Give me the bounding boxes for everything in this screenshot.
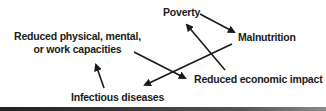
node-infectious-diseases: Infectious diseases <box>71 91 164 104</box>
node-malnutrition: Malnutrition <box>238 31 296 44</box>
node-infectious-diseases-label: Infectious diseases <box>71 91 164 103</box>
arrow-infectious-to-capacities <box>96 65 104 88</box>
node-reduced-economic-impact-label: Reduced economic impact <box>194 73 322 85</box>
bottom-border-rule <box>0 107 326 111</box>
node-reduced-capacities-label-line2: or work capacities <box>14 43 141 56</box>
node-reduced-capacities: Reduced physical, mental, or work capaci… <box>14 30 141 56</box>
node-malnutrition-label: Malnutrition <box>238 31 296 43</box>
node-reduced-capacities-label-line1: Reduced physical, mental, <box>14 30 141 43</box>
vicious-cycle-diagram: Poverty Malnutrition Infectious diseases… <box>0 0 326 111</box>
arrow-poverty-to-malnutrition <box>200 14 234 32</box>
node-poverty: Poverty <box>163 6 200 19</box>
node-poverty-label: Poverty <box>163 6 200 18</box>
node-reduced-economic-impact: Reduced economic impact <box>194 73 322 86</box>
arrow-capacities-to-economic <box>134 52 185 78</box>
